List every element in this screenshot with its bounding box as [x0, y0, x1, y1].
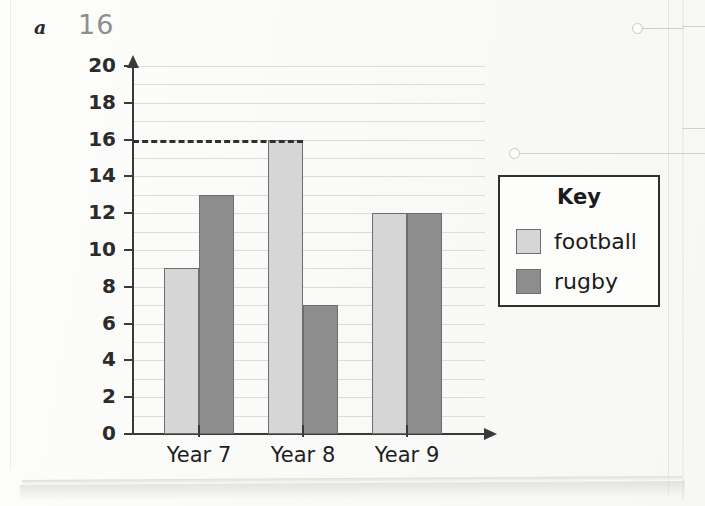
x-axis-tick — [198, 425, 200, 437]
y-axis-line — [132, 66, 134, 435]
gridline — [133, 66, 485, 67]
y-axis-tick-label: 6 — [76, 311, 116, 335]
x-axis-tick-label: Year 7 — [139, 443, 259, 467]
bar-rugby-year-7 — [199, 195, 234, 434]
gridline — [133, 158, 485, 159]
dashed-guide-line — [133, 140, 303, 143]
bar-rugby-year-8 — [303, 305, 338, 434]
gridline — [133, 103, 485, 104]
x-axis-tick-label: Year 9 — [347, 443, 467, 467]
y-axis-tick-label: 12 — [76, 200, 116, 224]
bar-football-year-7 — [164, 268, 199, 434]
bar-football-year-9 — [372, 213, 407, 434]
y-axis-tick-label: 10 — [76, 237, 116, 261]
gridline — [133, 195, 485, 196]
gridline — [133, 121, 485, 122]
legend-item-rugby: rugby — [516, 269, 618, 294]
legend-label-rugby: rugby — [554, 269, 618, 294]
x-axis-tick — [406, 425, 408, 437]
y-axis-tick-label: 0 — [76, 421, 116, 445]
legend-swatch-rugby — [516, 269, 541, 294]
scanned-worksheet-page: a 16 02468101214161820 Year 7Year 8Year … — [0, 0, 705, 506]
y-axis-tick-label: 2 — [76, 384, 116, 408]
y-axis-tick-label: 4 — [76, 347, 116, 371]
gridline — [133, 176, 485, 177]
legend-label-football: football — [554, 229, 637, 254]
y-axis-tick-label: 14 — [76, 163, 116, 187]
y-axis-tick-label: 20 — [76, 53, 116, 77]
y-axis-tick-label: 8 — [76, 274, 116, 298]
gridline — [133, 84, 485, 85]
y-axis-arrow-icon — [127, 55, 139, 68]
y-axis-tick-label: 16 — [76, 127, 116, 151]
y-axis-tick-label: 18 — [76, 90, 116, 114]
legend-swatch-football — [516, 229, 541, 254]
x-axis-tick-label: Year 8 — [243, 443, 363, 467]
bar-rugby-year-9 — [407, 213, 442, 434]
legend-title: Key — [500, 185, 658, 209]
chart-legend: Key football rugby — [498, 175, 660, 307]
x-axis-tick — [302, 425, 304, 437]
x-axis-arrow-icon — [484, 428, 497, 440]
bar-football-year-8 — [268, 140, 303, 434]
legend-item-football: football — [516, 229, 637, 254]
